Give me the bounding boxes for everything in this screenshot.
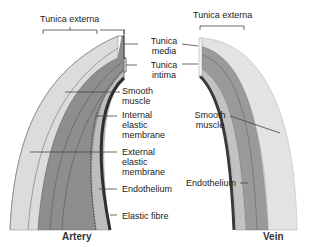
artery-caption: Artery bbox=[62, 231, 91, 242]
vein-label-tunica-externa: Tunica externa bbox=[193, 10, 252, 20]
vein-caption: Vein bbox=[263, 231, 284, 242]
external-elastic-line2: elastic bbox=[122, 157, 165, 167]
tunica-media-line1: Tunica bbox=[144, 36, 184, 46]
internal-elastic-line3: membrane bbox=[122, 130, 165, 140]
artery-label-endothelium: Endothelium bbox=[122, 184, 172, 194]
external-elastic-line3: membrane bbox=[122, 167, 165, 177]
artery-label-tunica-externa: Tunica externa bbox=[40, 14, 99, 24]
internal-elastic-line2: elastic bbox=[122, 120, 165, 130]
label-tunica-intima: Tunica intima bbox=[144, 60, 184, 80]
smooth-muscle-line2: muscle bbox=[122, 96, 153, 106]
vein-label-smooth-muscle: Smooth muscle bbox=[190, 110, 230, 130]
tunica-intima-line1: Tunica bbox=[144, 60, 184, 70]
artery-label-smooth-muscle: Smooth muscle bbox=[122, 86, 153, 106]
artery-label-external-elastic: External elastic membrane bbox=[122, 147, 165, 177]
vein-smooth-muscle-line1: Smooth bbox=[190, 110, 230, 120]
tunica-media-line2: media bbox=[144, 46, 184, 56]
vein-label-endothelium: Endothelium bbox=[186, 178, 236, 188]
vein-cross-section bbox=[199, 38, 297, 230]
tunica-intima-line2: intima bbox=[144, 70, 184, 80]
label-tunica-media: Tunica media bbox=[144, 36, 184, 56]
internal-elastic-line1: Internal bbox=[122, 110, 165, 120]
artery-label-elastic-fibre: Elastic fibre bbox=[122, 211, 169, 221]
external-elastic-line1: External bbox=[122, 147, 165, 157]
artery-cross-section bbox=[10, 36, 124, 230]
smooth-muscle-line1: Smooth bbox=[122, 86, 153, 96]
vein-smooth-muscle-line2: muscle bbox=[190, 120, 230, 130]
artery-label-internal-elastic: Internal elastic membrane bbox=[122, 110, 165, 140]
